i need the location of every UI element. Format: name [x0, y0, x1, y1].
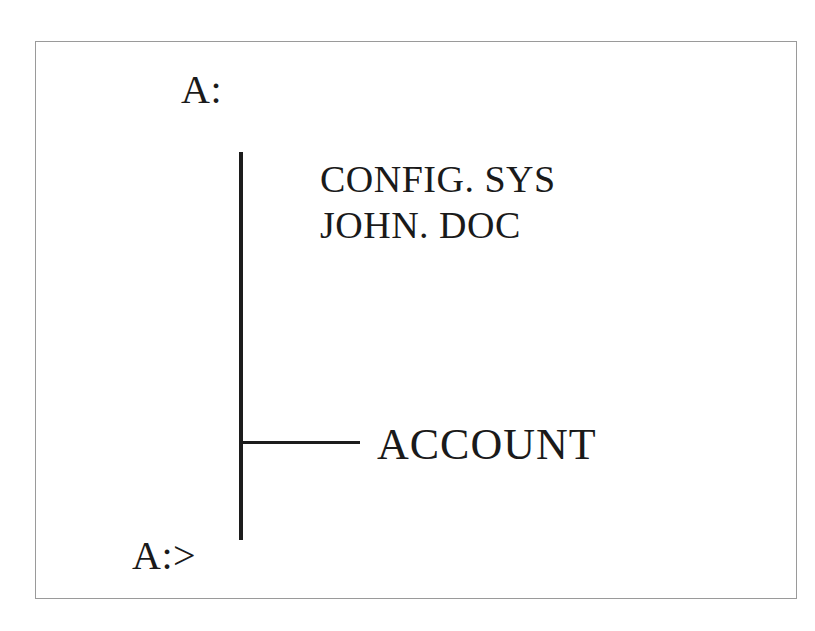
file-entry: CONFIG. SYS — [320, 160, 556, 198]
tree-branch-line — [241, 441, 360, 444]
subdirectory-label: ACCOUNT — [377, 423, 597, 467]
tree-trunk-line — [239, 152, 243, 540]
command-prompt: A:> — [132, 536, 196, 576]
root-drive-label: A: — [181, 70, 222, 110]
file-entry: JOHN. DOC — [320, 206, 521, 244]
diagram-frame — [35, 41, 797, 599]
